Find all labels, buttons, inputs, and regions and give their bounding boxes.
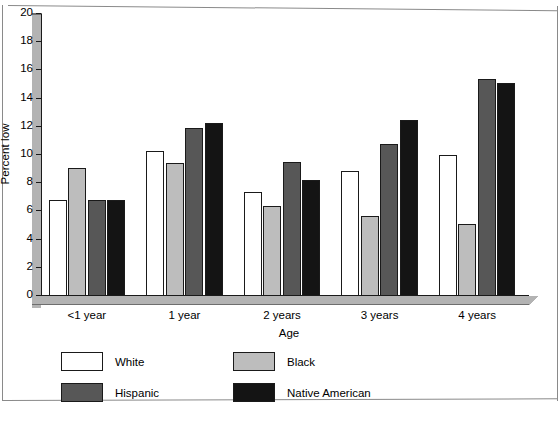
y-axis-tick [36, 69, 41, 70]
y-axis-tick-label: 2 [27, 261, 33, 273]
bar [263, 206, 281, 296]
x-axis-title: Age [279, 327, 299, 339]
bar [283, 162, 301, 296]
y-axis-tick [36, 239, 41, 240]
y-axis-tick [36, 267, 41, 268]
y-axis-tick-label: 18 [20, 35, 33, 47]
bar [400, 120, 418, 296]
plot-area: Percent low 02468101214161820 <1 year1 y… [41, 13, 538, 296]
x-axis-bevel [529, 296, 538, 305]
y-axis-line [41, 14, 42, 296]
legend-swatch [233, 352, 275, 371]
bar [107, 200, 125, 296]
bar [478, 79, 496, 296]
legend-swatch [61, 352, 103, 371]
bar [361, 216, 379, 296]
y-axis-tick [36, 98, 41, 99]
x-axis-tick-label: <1 year [67, 309, 106, 321]
legend-label: Hispanic [115, 387, 159, 399]
bar [439, 155, 457, 296]
figure-border-left [2, 5, 3, 401]
legend-item: White [61, 352, 144, 371]
y-axis-title: Percent low [0, 123, 11, 184]
y-axis-tick-label: 6 [27, 205, 33, 217]
bar [166, 163, 184, 296]
y-axis-tick-label: 0 [27, 289, 33, 301]
legend-item: Black [233, 352, 315, 371]
y-axis-tick-label: 14 [20, 92, 33, 104]
bar [49, 200, 67, 296]
figure: Percent low 02468101214161820 <1 year1 y… [0, 0, 559, 421]
y-axis-tick-label: 16 [20, 64, 33, 76]
bar [88, 200, 106, 296]
y-axis-tick [36, 210, 41, 211]
y-axis-tick-label: 12 [20, 120, 33, 132]
bar [185, 128, 203, 296]
y-axis-tick [36, 295, 41, 296]
bar [302, 180, 320, 296]
bar [341, 171, 359, 296]
y-axis-tick-label: 8 [27, 176, 33, 188]
bar [146, 151, 164, 296]
x-axis-tick-label: 2 years [263, 309, 301, 321]
y-axis-tick [36, 41, 41, 42]
legend-swatch [233, 383, 275, 402]
bar [497, 83, 515, 296]
x-axis-tick-label: 1 year [168, 309, 200, 321]
y-axis-tick [36, 126, 41, 127]
legend: WhiteBlackHispanicNative American [61, 352, 391, 402]
y-axis-tick-label: 10 [20, 148, 33, 160]
figure-border-right [557, 6, 558, 401]
bar [458, 224, 476, 296]
x-axis-slab-edge [32, 304, 529, 305]
bar [380, 144, 398, 296]
legend-label: Native American [287, 387, 371, 399]
y-axis-tick [36, 154, 41, 155]
y-axis-tick-label: 20 [20, 7, 33, 19]
y-axis-tick-label: 4 [27, 233, 33, 245]
legend-item: Hispanic [61, 383, 159, 402]
figure-border-top [8, 5, 557, 11]
bar [205, 123, 223, 296]
x-axis-tick-label: 4 years [458, 309, 496, 321]
legend-label: White [115, 356, 144, 368]
legend-label: Black [287, 356, 315, 368]
x-axis-tick-label: 3 years [361, 309, 399, 321]
y-axis-tick [36, 13, 41, 14]
bar [244, 192, 262, 296]
y-axis-tick [36, 182, 41, 183]
bar [68, 168, 86, 296]
legend-item: Native American [233, 383, 371, 402]
legend-swatch [61, 383, 103, 402]
y-axis-slab [32, 14, 41, 308]
